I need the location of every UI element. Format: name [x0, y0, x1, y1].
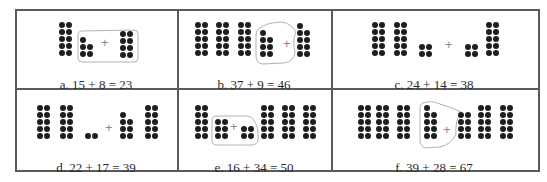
counter-dot: [465, 126, 471, 132]
plus-sign: +: [101, 36, 109, 49]
counter-dot: [202, 43, 208, 49]
counter-dot: [379, 36, 385, 42]
counter-dot: [145, 126, 151, 132]
counter-dot: [478, 119, 484, 125]
counter-dot: [216, 29, 222, 35]
counter-dot: [297, 37, 303, 43]
counter-dot: [485, 119, 491, 125]
counter-dot: [500, 119, 506, 125]
counter-dot: [223, 36, 229, 42]
counter-dot: [245, 29, 251, 35]
counter-dot: [358, 126, 364, 132]
counter-dot: [485, 126, 491, 132]
counter-dot: [59, 43, 65, 49]
counter-dot: [92, 133, 98, 139]
counter-dot: [145, 112, 151, 118]
counter-dot: [195, 112, 201, 118]
counter-dot: [67, 133, 73, 139]
counter-dot: [486, 43, 492, 49]
counter-dot: [87, 51, 93, 57]
counter-dot: [383, 105, 389, 111]
counter-dot: [358, 105, 364, 111]
counter-dot: [195, 133, 201, 139]
counter-dot: [304, 44, 310, 50]
counter-dot: [404, 105, 410, 111]
plus-sign: +: [230, 120, 238, 133]
counter-dot: [238, 43, 244, 49]
counter-dot: [60, 119, 66, 125]
counter-dot: [60, 133, 66, 139]
counter-dot: [152, 126, 158, 132]
counter-dot: [60, 112, 66, 118]
counter-dot: [195, 50, 201, 56]
counter-dot: [282, 105, 288, 111]
counter-dot: [472, 44, 478, 50]
counter-dot: [282, 119, 288, 125]
counter-dot: [152, 112, 158, 118]
counter-dot: [66, 22, 72, 28]
counter-dot: [431, 126, 437, 132]
counter-dot: [202, 133, 208, 139]
counter-dot: [401, 22, 407, 28]
counter-dot: [424, 112, 430, 118]
counter-dot: [44, 126, 50, 132]
counter-dot: [268, 105, 274, 111]
counter-dot: [195, 105, 201, 111]
counter-dot: [261, 133, 267, 139]
counter-dot: [507, 119, 513, 125]
counter-dot: [397, 105, 403, 111]
counter-dot: [145, 105, 151, 111]
counter-dot: [261, 112, 267, 118]
counter-dot: [383, 112, 389, 118]
counter-dot: [303, 133, 309, 139]
plus-sign: +: [105, 121, 113, 134]
counter-dot: [66, 43, 72, 49]
counter-dot: [289, 126, 295, 132]
counter-dot: [383, 133, 389, 139]
counter-dot: [222, 133, 228, 139]
counter-dot: [37, 112, 43, 118]
counter-dot: [379, 29, 385, 35]
counter-dot: [383, 119, 389, 125]
counter-dot: [397, 119, 403, 125]
counter-dot: [365, 133, 371, 139]
counter-dot: [267, 37, 273, 43]
counter-dot: [401, 50, 407, 56]
counter-dot: [303, 126, 309, 132]
counter-dot: [426, 51, 432, 57]
counter-dot: [248, 133, 254, 139]
counter-dot: [458, 126, 464, 132]
counter-dot: [87, 44, 93, 50]
counter-dot: [268, 133, 274, 139]
counter-dot: [424, 105, 430, 111]
counter-dot: [458, 112, 464, 118]
counter-dot: [397, 112, 403, 118]
counter-dot: [419, 44, 425, 50]
counter-dot: [365, 126, 371, 132]
counter-dot: [458, 133, 464, 139]
counter-dot: [60, 105, 66, 111]
counter-dot: [500, 133, 506, 139]
counter-dot: [67, 105, 73, 111]
counter-dot: [66, 29, 72, 35]
counter-dot: [202, 119, 208, 125]
counter-dot: [238, 29, 244, 35]
counter-dot: [44, 105, 50, 111]
counter-dot: [202, 36, 208, 42]
counter-dot: [304, 37, 310, 43]
panel-caption: b. 37 + 9 = 46: [217, 77, 290, 93]
counter-dot: [202, 112, 208, 118]
counter-dot: [127, 38, 133, 44]
panel-caption: a. 15 + 8 = 23: [60, 77, 132, 93]
counter-dot: [248, 126, 254, 132]
counter-dot: [431, 119, 437, 125]
counter-dot: [152, 119, 158, 125]
counter-dot: [303, 105, 309, 111]
counter-dot: [458, 119, 464, 125]
counter-dot: [493, 43, 499, 49]
counter-dot: [216, 22, 222, 28]
counter-dot: [507, 105, 513, 111]
counter-dot: [303, 119, 309, 125]
counter-dot: [404, 126, 410, 132]
plus-sign: +: [443, 123, 451, 136]
